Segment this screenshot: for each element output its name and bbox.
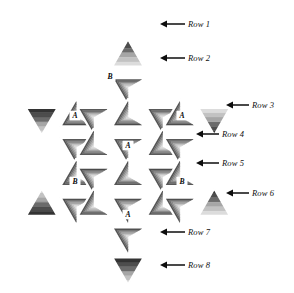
row-2-label: Row 2 bbox=[187, 53, 211, 63]
node-a-bottom: A bbox=[124, 210, 130, 219]
row-5-label: Row 5 bbox=[221, 158, 244, 168]
node-a-left: A bbox=[71, 111, 77, 120]
hexagram-svg: BAAABBA Row 1Row 2Row 3Row 4Row 5Row 6Ro… bbox=[0, 0, 294, 293]
node-a-center: A bbox=[124, 141, 130, 150]
node-a-right: A bbox=[178, 111, 184, 120]
row-8-label: Row 8 bbox=[187, 260, 211, 270]
node-b-lower-left: B bbox=[71, 177, 77, 186]
row-3-label: Row 3 bbox=[251, 100, 274, 110]
hexagram-diagram: BAAABBA Row 1Row 2Row 3Row 4Row 5Row 6Ro… bbox=[0, 0, 294, 293]
row-7-label: Row 7 bbox=[187, 227, 211, 237]
diagram-background bbox=[0, 0, 294, 293]
row-1-label: Row 1 bbox=[187, 19, 210, 29]
row-4-label: Row 4 bbox=[221, 129, 245, 139]
row-6-label: Row 6 bbox=[251, 188, 275, 198]
node-b-top: B bbox=[106, 72, 112, 81]
node-b-lower-right: B bbox=[178, 177, 184, 186]
